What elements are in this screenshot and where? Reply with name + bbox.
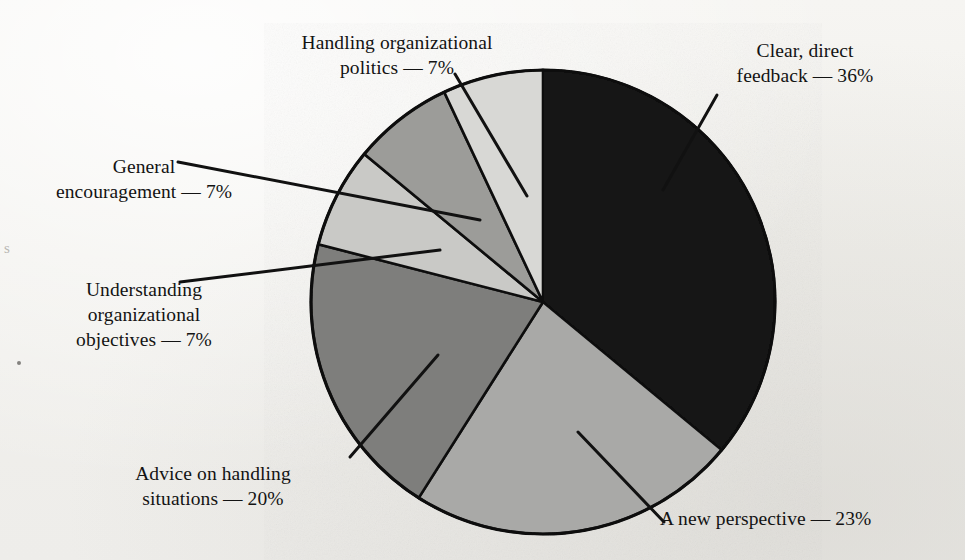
pie-slices-group bbox=[311, 70, 775, 534]
scan-speck bbox=[17, 361, 21, 365]
label-a-new-perspective: A new perspective — 23% bbox=[660, 506, 960, 531]
label-understanding-organizational-objectives: Understanding organizational objectives … bbox=[10, 277, 278, 352]
label-clear-direct-feedback: Clear, direct feedback — 36% bbox=[690, 38, 920, 88]
scan-edge-letter: s bbox=[4, 240, 10, 257]
label-handling-organizational-politics: Handling organizational politics — 7% bbox=[252, 30, 542, 80]
label-advice-on-handling-situations: Advice on handling situations — 20% bbox=[78, 461, 348, 511]
label-general-encouragement: General encouragement — 7% bbox=[10, 154, 278, 204]
pie-chart-figure: Handling organizational politics — 7% Cl… bbox=[0, 0, 965, 560]
